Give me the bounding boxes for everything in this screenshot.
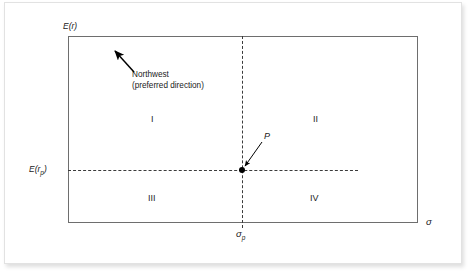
quadrant-label-ii: II bbox=[313, 114, 318, 124]
x-value-label-subscript: p bbox=[242, 234, 246, 241]
figure-card: E(r) E(rp) σ σp I II III IV Northwest (p… bbox=[4, 2, 462, 264]
northwest-annotation-line2: (preferred direction) bbox=[132, 80, 204, 91]
horizontal-reference-line bbox=[68, 170, 358, 171]
y-value-label-main: E(r bbox=[29, 164, 40, 174]
point-p-label: P bbox=[264, 131, 270, 141]
x-axis-label: σ bbox=[426, 216, 432, 227]
northwest-annotation-line1: Northwest bbox=[132, 69, 204, 80]
y-value-label-tail: ) bbox=[44, 164, 47, 174]
northwest-annotation: Northwest (preferred direction) bbox=[132, 69, 204, 91]
vertical-reference-line bbox=[242, 36, 243, 228]
plot-frame bbox=[68, 36, 418, 223]
x-value-label: σp bbox=[236, 228, 245, 241]
y-axis-label: E(r) bbox=[63, 21, 77, 31]
quadrant-label-i: I bbox=[151, 114, 154, 124]
quadrant-label-iv: IV bbox=[310, 193, 319, 203]
quadrant-label-iii: III bbox=[148, 193, 156, 203]
y-value-label: E(rp) bbox=[29, 164, 47, 176]
point-p-marker bbox=[239, 167, 245, 173]
